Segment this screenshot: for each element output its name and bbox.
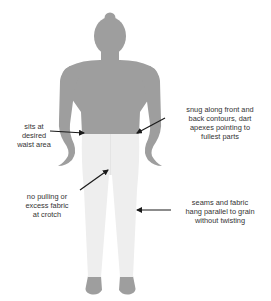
- annotation-line: hang parallel to grain: [174, 207, 266, 216]
- annotation-grain: seams and fabric hang parallel to grain …: [174, 198, 266, 225]
- annotation-line: back contours, dart: [170, 114, 270, 123]
- annotation-line: without twisting: [174, 216, 266, 225]
- annotation-crotch: no pulling or excess fabric at crotch: [18, 192, 76, 219]
- fit-diagram-figure: [0, 0, 271, 301]
- annotation-darts: snug along front and back contours, dart…: [170, 105, 270, 141]
- annotation-line: seams and fabric: [174, 198, 266, 207]
- annotation-line: no pulling or: [18, 192, 76, 201]
- annotation-line: snug along front and: [170, 105, 270, 114]
- annotation-line: desired: [14, 131, 54, 140]
- annotation-line: apexes pointing to: [170, 123, 270, 132]
- annotation-line: sits at: [14, 122, 54, 131]
- annotation-line: waist area: [14, 140, 54, 149]
- left-foot: [86, 276, 103, 295]
- annotation-line: excess fabric: [18, 201, 76, 210]
- right-foot: [119, 276, 136, 295]
- annotation-line: fullest parts: [170, 132, 270, 141]
- annotation-waist: sits at desired waist area: [14, 122, 54, 149]
- annotation-line: at crotch: [18, 210, 76, 219]
